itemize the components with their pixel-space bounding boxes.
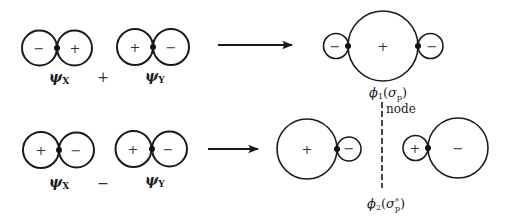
sign-plus: + bbox=[410, 141, 421, 156]
phi1-label: ϕ1(σp) bbox=[369, 85, 407, 102]
sign-plus-center: + bbox=[378, 39, 389, 54]
sign-minus-right: − bbox=[427, 39, 438, 54]
sign-plus: + bbox=[302, 142, 313, 157]
nucleus-dot-right bbox=[415, 43, 421, 49]
sign-minus: − bbox=[344, 141, 355, 156]
psi-x-label: ψX bbox=[49, 174, 69, 191]
sign-minus: − bbox=[34, 41, 45, 56]
mo-diagram: − + ψX + + − ψY − + − ϕ1(σp) n bbox=[0, 0, 516, 218]
nucleus-dot bbox=[150, 44, 156, 50]
sign-plus: + bbox=[36, 143, 47, 158]
psi-y-label: ψY bbox=[145, 172, 165, 189]
sign-minus: − bbox=[453, 141, 464, 156]
row-1-bonding: − + ψX + + − ψY − + − ϕ1(σp) bbox=[22, 11, 443, 102]
nucleus-dot-right bbox=[425, 145, 431, 151]
psi-y-label: ψY bbox=[145, 68, 165, 85]
sign-plus: + bbox=[70, 41, 81, 56]
psi-x-orbital-top: − + ψX bbox=[22, 31, 92, 87]
minus-operator: − bbox=[97, 175, 109, 191]
sign-minus: − bbox=[163, 142, 174, 157]
phi1-sigma-orbital: − + − ϕ1(σp) bbox=[324, 11, 444, 102]
psi-x-label: ψX bbox=[49, 69, 69, 86]
nucleus-dot bbox=[56, 147, 62, 153]
sign-minus: − bbox=[71, 143, 82, 158]
nucleus-dot-left bbox=[334, 146, 340, 152]
plus-operator: + bbox=[97, 69, 109, 85]
row-2-antibonding: + − ψX − + − ψY + − + − ϕ2(σ*p) bbox=[23, 118, 488, 213]
nucleus-dot-left bbox=[345, 43, 351, 49]
sign-plus: + bbox=[130, 40, 141, 55]
sign-minus: − bbox=[166, 40, 177, 55]
psi-y-orbital-bottom: + − ψY bbox=[116, 131, 188, 189]
phi2-label: ϕ2(σ*p) bbox=[367, 196, 405, 213]
nucleus-dot bbox=[149, 146, 155, 152]
nucleus-dot bbox=[54, 45, 60, 51]
node-label: node bbox=[386, 102, 416, 116]
psi-y-orbital-top: + − ψY bbox=[117, 29, 189, 85]
psi-x-orbital-bottom: + − ψX bbox=[23, 132, 94, 191]
sign-plus: + bbox=[128, 142, 139, 157]
sign-minus-left: − bbox=[330, 39, 341, 54]
